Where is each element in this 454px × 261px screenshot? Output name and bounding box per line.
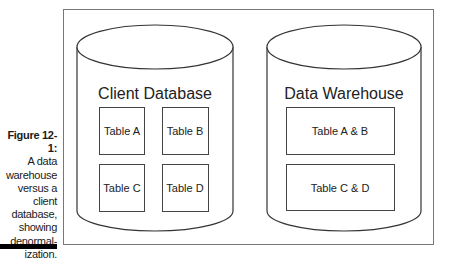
data-warehouse-title: Data Warehouse <box>284 85 404 102</box>
table-label: Table D <box>166 182 203 194</box>
table-label: Table C <box>103 182 140 194</box>
table-label: Table A & B <box>312 125 368 137</box>
table-label: Table C & D <box>311 182 370 194</box>
table-label: Table A <box>104 125 141 137</box>
client-database-title: Client Database <box>98 85 212 102</box>
data-warehouse-cylinder: Data Warehouse Table A & B Table C & D <box>267 25 421 231</box>
client-database-cylinder: Client Database Table A Table B Table C … <box>77 25 233 231</box>
table-label: Table B <box>167 125 204 137</box>
